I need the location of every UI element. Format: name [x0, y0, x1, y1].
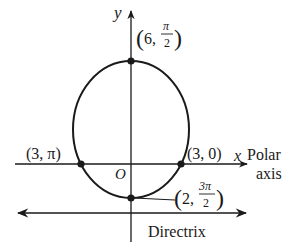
label-top-theta-num: π [163, 19, 170, 33]
paren-open: ( [174, 185, 182, 211]
label-bottom-theta-num: 3π [198, 179, 212, 193]
label-bottom-point: ( 2, 3π 2 ) [174, 179, 224, 211]
paren-open: ( [136, 25, 144, 51]
polar-axis-label-line1: Polar [247, 146, 281, 163]
polar-ellipse-diagram: y x Polar axis O Directrix ( 6, π 2 ) (3… [0, 0, 308, 252]
bottom-point-leader [134, 198, 175, 200]
label-right-point: (3, 0) [187, 145, 222, 163]
paren-close: ) [216, 185, 224, 211]
point-bottom [127, 194, 134, 201]
directrix-label: Directrix [148, 223, 206, 240]
point-right [177, 160, 184, 167]
y-axis-label: y [112, 3, 122, 22]
label-left-point: (3, π) [26, 145, 61, 163]
label-top-point: ( 6, π 2 ) [136, 19, 182, 51]
label-top-theta-den: 2 [164, 36, 170, 50]
label-top-r: 6, [144, 30, 156, 47]
label-bottom-r: 2, [182, 190, 194, 207]
point-top [127, 57, 134, 64]
point-left [77, 160, 84, 167]
paren-close: ) [174, 25, 182, 51]
x-axis-label: x [233, 147, 241, 164]
label-bottom-theta-den: 2 [203, 196, 209, 210]
polar-axis-label-line2: axis [256, 165, 282, 182]
origin-label: O [115, 166, 126, 182]
